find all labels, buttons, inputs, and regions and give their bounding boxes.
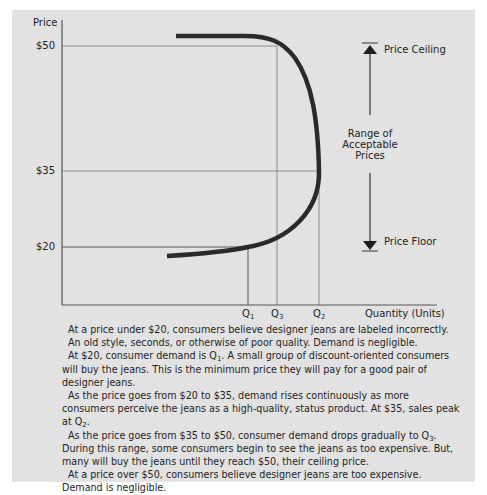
para-under-20-line2: An old style, seconds, or otherwise of p…: [62, 336, 462, 349]
price-ceiling-label: Price Ceiling: [384, 44, 446, 55]
y-axis-label: Price: [33, 17, 57, 28]
arrow-down-icon: [363, 241, 377, 250]
range-label: Range of Acceptable Prices: [330, 128, 410, 161]
para-20-to-35: As the price goes from $20 to $35, deman…: [62, 389, 462, 429]
y-tick-50: $50: [15, 40, 55, 51]
demand-curve: [167, 36, 319, 256]
para-over-50: At a price over $50, consumers believe d…: [62, 468, 462, 494]
x-tick-q1: Q1: [242, 308, 254, 321]
arrow-up-icon: [363, 45, 377, 54]
x-tick-q2: Q2: [313, 308, 325, 321]
para-35-to-50: As the price goes from $35 to $50, consu…: [62, 429, 462, 469]
para-at-20: At $20, consumer demand is Q1. A small g…: [62, 349, 462, 389]
para-under-20-line1: At a price under $20, consumers believe …: [62, 323, 462, 336]
explanation-text: At a price under $20, consumers believe …: [62, 323, 462, 495]
y-tick-20: $20: [15, 241, 55, 252]
y-tick-35: $35: [15, 165, 55, 176]
price-floor-label: Price Floor: [384, 236, 436, 247]
x-tick-q3: Q3: [271, 308, 283, 321]
x-axis-label: Quantity (Units): [365, 308, 445, 319]
